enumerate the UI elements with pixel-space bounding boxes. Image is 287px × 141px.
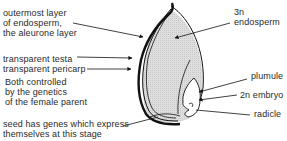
pericarp-label: transparent pericarp (3, 64, 86, 74)
embryo-label: 2n embryo (240, 90, 283, 100)
embryo-pointer (199, 95, 237, 100)
plumule-label: plumule (251, 71, 283, 81)
aleurone-label: outermost layer of endosperm, the aleuro… (3, 8, 77, 38)
aleurone-pointer (73, 23, 143, 37)
maternal-control-note: Both controlled by the genetics of the f… (5, 77, 87, 107)
endosperm-label: 3n endosperm (234, 7, 280, 27)
radicle-pointer (196, 110, 250, 115)
radicle-label: radicle (254, 109, 281, 119)
seed-genes-note: seed has genes which express themselves … (3, 119, 129, 139)
testa-label: transparent testa (3, 54, 72, 64)
testa-pointer (77, 57, 132, 58)
